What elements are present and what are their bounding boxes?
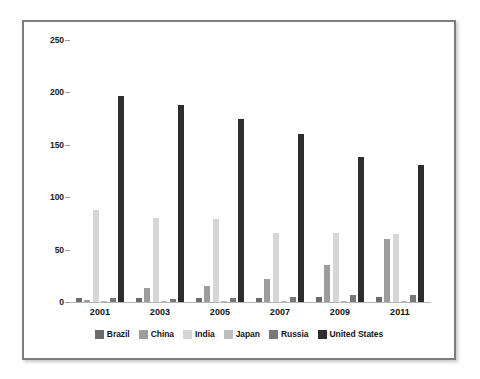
chart-legend: BrazilChinaIndiaJapanRussiaUnited States <box>24 329 454 339</box>
bar <box>376 297 382 302</box>
bar-group <box>370 40 430 302</box>
plot-area <box>70 40 430 302</box>
bar <box>401 301 407 303</box>
legend-item[interactable]: India <box>183 329 215 339</box>
bar <box>196 298 202 302</box>
plot-wrapper: 050100150200250 200120032005200720092011… <box>24 22 454 358</box>
bar-group <box>310 40 370 302</box>
bar <box>273 233 279 302</box>
x-axis-tick-label: 2007 <box>250 307 310 317</box>
bar <box>144 288 150 302</box>
bar <box>76 298 82 302</box>
bar <box>393 234 399 302</box>
bar <box>84 300 90 302</box>
bar <box>333 233 339 302</box>
bar <box>110 298 116 302</box>
legend-swatch-icon <box>95 330 104 339</box>
bar <box>324 265 330 302</box>
bar <box>178 105 184 302</box>
bar <box>118 96 124 302</box>
bar <box>101 301 107 303</box>
y-axis-tick-label: 200 <box>28 87 64 97</box>
y-axis-tick-label-host: 250 <box>24 35 64 45</box>
legend-swatch-icon <box>224 330 233 339</box>
bar <box>358 157 364 302</box>
bar <box>153 218 159 302</box>
y-axis-tick-label-host: 0 <box>24 297 64 307</box>
legend-label: United States <box>330 329 384 339</box>
legend-label: Brazil <box>107 329 130 339</box>
bar <box>418 165 424 302</box>
legend-label: Russia <box>281 329 309 339</box>
bar <box>161 301 167 303</box>
bar <box>230 298 236 302</box>
legend-label: Japan <box>236 329 260 339</box>
legend-swatch-icon <box>318 330 327 339</box>
x-axis-line <box>70 302 431 303</box>
x-axis-tick-label: 2001 <box>70 307 130 317</box>
y-axis-tick-label-host: 150 <box>24 140 64 150</box>
bar-group <box>250 40 310 302</box>
bar <box>170 299 176 302</box>
bar <box>316 297 322 302</box>
legend-label: India <box>195 329 215 339</box>
bar <box>341 301 347 303</box>
bar <box>298 134 304 302</box>
y-axis-tick-label-host: 50 <box>24 245 64 255</box>
y-axis-tick-label: 50 <box>28 245 64 255</box>
x-axis-tick-label: 2011 <box>370 307 430 317</box>
bar <box>264 279 270 302</box>
legend-item[interactable]: Russia <box>269 329 309 339</box>
bar <box>238 119 244 302</box>
bar-group <box>70 40 130 302</box>
legend-swatch-icon <box>139 330 148 339</box>
bar <box>221 301 227 303</box>
legend-swatch-icon <box>183 330 192 339</box>
y-axis-tick-label: 150 <box>28 140 64 150</box>
bar <box>93 210 99 302</box>
chart-frame: 050100150200250 200120032005200720092011… <box>22 20 456 360</box>
bar-group <box>190 40 250 302</box>
chart-figure: 050100150200250 200120032005200720092011… <box>0 0 480 379</box>
bar <box>350 295 356 302</box>
bar-group <box>130 40 190 302</box>
y-axis-tick-label: 100 <box>28 192 64 202</box>
x-axis-tick-label: 2005 <box>190 307 250 317</box>
bar <box>136 298 142 302</box>
y-axis-tick-label-host: 200 <box>24 87 64 97</box>
x-axis-tick-label: 2009 <box>310 307 370 317</box>
legend-item[interactable]: United States <box>318 329 384 339</box>
x-axis-tick-label: 2003 <box>130 307 190 317</box>
bar <box>204 286 210 302</box>
y-axis-tick-label: 250 <box>28 35 64 45</box>
y-axis-tick-label: 0 <box>28 297 64 307</box>
bar <box>410 295 416 302</box>
legend-swatch-icon <box>269 330 278 339</box>
y-axis-tick-label-host: 100 <box>24 192 64 202</box>
legend-label: China <box>151 329 174 339</box>
bar <box>290 297 296 302</box>
legend-item[interactable]: Brazil <box>95 329 130 339</box>
bar <box>281 301 287 303</box>
bar <box>213 219 219 302</box>
legend-item[interactable]: China <box>139 329 174 339</box>
bar <box>256 298 262 302</box>
legend-item[interactable]: Japan <box>224 329 260 339</box>
bar <box>384 239 390 302</box>
